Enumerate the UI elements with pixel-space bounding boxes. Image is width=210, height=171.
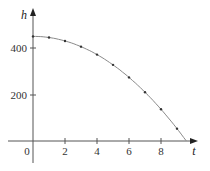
data-point <box>96 53 98 55</box>
data-markers <box>32 35 178 130</box>
data-point <box>80 45 82 47</box>
y-axis-label: h <box>21 8 27 22</box>
x-axis-label: t <box>192 144 196 158</box>
data-curve <box>33 36 186 140</box>
x-tick-label-2: 2 <box>62 145 68 157</box>
data-point <box>112 64 114 66</box>
y-tick-label-400: 400 <box>11 42 28 54</box>
data-point <box>48 36 50 38</box>
x-tick-label-6: 6 <box>126 145 132 157</box>
y-tick-label-200: 200 <box>11 89 28 101</box>
data-point <box>160 108 162 110</box>
origin-label: 0 <box>24 145 30 157</box>
data-point <box>64 40 66 42</box>
chart: 0 2 4 6 8 400 200 h t <box>0 0 210 171</box>
data-point <box>32 35 34 37</box>
data-point <box>128 76 130 78</box>
x-tick-label-8: 8 <box>158 145 164 157</box>
data-point <box>176 127 178 129</box>
data-point <box>144 91 146 93</box>
x-tick-label-4: 4 <box>94 145 100 157</box>
